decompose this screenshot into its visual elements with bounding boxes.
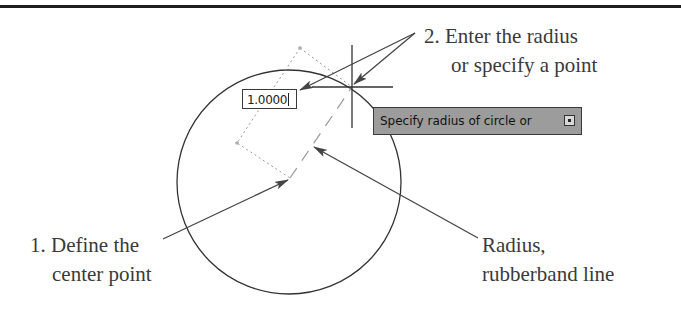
tooltip-prompt: Specify radius of circle or	[380, 114, 532, 128]
dotted-guide	[237, 48, 300, 178]
callout-step2-line1: 2. Enter the radius	[424, 26, 578, 47]
arrow-to-rubberband	[314, 147, 478, 238]
callout-step2-line2: or specify a point	[451, 55, 597, 76]
arrow-to-center	[163, 180, 288, 239]
callout-radius-line2: rubberband line	[482, 264, 614, 285]
rubberband-line	[290, 87, 352, 178]
down-arrow-expand-icon[interactable]	[564, 115, 575, 126]
text-caret	[288, 93, 289, 106]
callout-step1-line2: center point	[52, 264, 152, 285]
dynamic-input-value: 1.0000	[247, 93, 287, 107]
command-prompt-tooltip: Specify radius of circle or	[373, 107, 582, 135]
dynamic-input-field[interactable]: 1.0000	[242, 89, 297, 109]
callout-radius-line1: Radius,	[482, 235, 546, 256]
callout-step1-line1: 1. Define the	[30, 235, 139, 256]
